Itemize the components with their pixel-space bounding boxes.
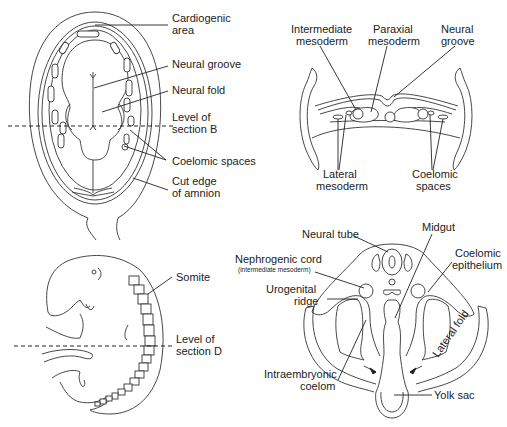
- label-intermediate-mesoderm: Intermediate: [291, 23, 352, 35]
- label-intraembryonic-coelom-2: coelom: [300, 380, 335, 392]
- label-paraxial-mesoderm: Paraxial: [373, 23, 413, 35]
- label-intraembryonic-coelom: Intraembryonic: [264, 368, 337, 380]
- label-paraxial-mesoderm-2: mesoderm: [368, 35, 420, 47]
- embryo-folding-figure: Cardiogenic area Neural groove Neural fo…: [0, 0, 507, 427]
- label-coelomic-spaces: Coelomic spaces: [172, 155, 256, 167]
- label-nephrogenic-cord-note: (intermediate mesoderm): [238, 266, 311, 274]
- label-coelomic-spaces-b: Coelomic: [412, 168, 458, 180]
- label-cut-edge-amnion-2: of amnion: [172, 187, 220, 199]
- label-neural-groove-b: Neural: [441, 23, 473, 35]
- label-intermediate-mesoderm-2: mesoderm: [296, 35, 348, 47]
- label-urogenital-ridge-2: ridge: [294, 295, 318, 307]
- label-lateral-mesoderm: Lateral: [323, 168, 357, 180]
- label-coelomic-spaces-b-2: spaces: [416, 180, 451, 192]
- label-level-section-d: Level of: [176, 333, 215, 345]
- label-level-section-b: Level of: [172, 111, 211, 123]
- label-level-section-d-2: section D: [176, 345, 222, 357]
- label-coelomic-epithelium-2: epithelium: [452, 259, 502, 271]
- label-nephrogenic-cord: Nephrogenic cord: [235, 253, 322, 265]
- label-cut-edge-amnion: Cut edge: [172, 175, 217, 187]
- label-cardiogenic-area: Cardiogenic: [172, 12, 231, 24]
- label-urogenital-ridge: Urogenital: [266, 283, 316, 295]
- somite-column: [95, 276, 155, 406]
- label-cardiogenic-area-2: area: [172, 24, 195, 36]
- label-somite: Somite: [176, 271, 210, 283]
- label-lateral-fold: Lateral fold: [430, 308, 471, 359]
- label-neural-groove-b-2: groove: [441, 35, 475, 47]
- label-midgut: Midgut: [422, 221, 455, 233]
- label-level-section-b-2: section B: [172, 123, 217, 135]
- panel-b-section-b: Intermediate mesoderm Paraxial mesoderm …: [291, 23, 475, 192]
- label-coelomic-epithelium: Coelomic: [455, 247, 501, 259]
- label-neural-tube: Neural tube: [302, 228, 359, 240]
- panel-c-lateral-view: Somite Level of section D: [14, 255, 222, 414]
- panel-a-dorsal-view: Cardiogenic area Neural groove Neural fo…: [8, 12, 256, 240]
- panel-d-section-d: Neural tube Midgut Nephrogenic cord (int…: [235, 221, 502, 418]
- label-neural-fold: Neural fold: [172, 84, 225, 96]
- label-neural-groove: Neural groove: [172, 58, 241, 70]
- label-lateral-mesoderm-2: mesoderm: [316, 180, 368, 192]
- label-yolk-sac: Yolk sac: [434, 389, 475, 401]
